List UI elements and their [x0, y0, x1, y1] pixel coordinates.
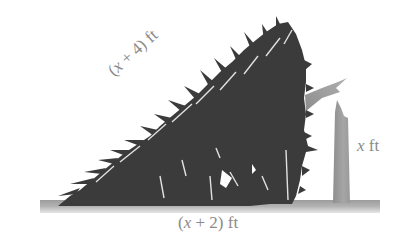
- tree-illustration: [0, 0, 416, 249]
- stump: [333, 100, 350, 203]
- height-variable: x: [357, 136, 365, 155]
- base-unit: ft: [228, 213, 238, 232]
- height-label: x ft: [357, 137, 379, 154]
- base-operation: + 2): [191, 213, 228, 232]
- break-shard: [305, 78, 347, 111]
- broken-tree-figure: (x + 4) ft x ft (x + 2) ft: [0, 0, 416, 249]
- height-unit: ft: [369, 136, 379, 155]
- base-label: (x + 2) ft: [178, 214, 238, 231]
- fallen-tree: [58, 16, 318, 206]
